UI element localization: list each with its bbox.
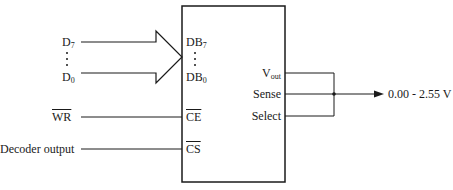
pin-ellipsis-dot bbox=[194, 64, 196, 66]
bus-ellipsis-dot bbox=[66, 58, 68, 60]
d0-label: D0 bbox=[62, 71, 75, 87]
wr-label: WR bbox=[52, 111, 71, 123]
diagram-canvas bbox=[0, 0, 453, 190]
decoder-output-label: Decoder output bbox=[0, 143, 74, 155]
d7-label: D7 bbox=[62, 36, 75, 52]
pin-ellipsis-dot bbox=[194, 58, 196, 60]
ce-pin-label: CE bbox=[186, 111, 201, 123]
bus-ellipsis-dot bbox=[66, 52, 68, 54]
select-pin-label: Select bbox=[252, 110, 281, 122]
junction-dot bbox=[332, 92, 336, 96]
output-arrowhead-icon bbox=[374, 91, 384, 98]
cs-pin-label: CS bbox=[186, 143, 201, 155]
db0-pin-label: DB0 bbox=[186, 71, 207, 87]
output-range-label: 0.00 - 2.55 V bbox=[388, 88, 451, 100]
pin-ellipsis-dot bbox=[194, 52, 196, 54]
data-bus-arrow bbox=[81, 31, 182, 83]
sense-pin-label: Sense bbox=[253, 88, 281, 100]
bus-ellipsis-dot bbox=[66, 64, 68, 66]
vout-pin-label: Vout bbox=[262, 67, 281, 83]
db7-pin-label: DB7 bbox=[186, 36, 207, 52]
